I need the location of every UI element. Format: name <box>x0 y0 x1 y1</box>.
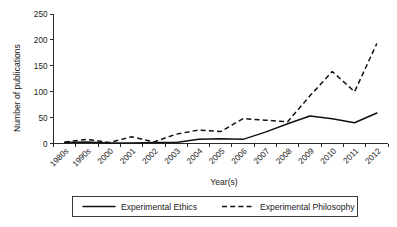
legend-label-experimental-philosophy: Experimental Philosophy <box>260 202 355 212</box>
y-tick-label: 250 <box>34 10 48 19</box>
legend-label-experimental-ethics: Experimental Ethics <box>121 202 197 212</box>
y-tick-label: 0 <box>43 140 48 149</box>
y-tick-label: 100 <box>34 88 48 97</box>
y-axis-title: Number of publications <box>12 44 22 132</box>
y-tick-label: 50 <box>38 114 48 123</box>
publications-line-chart: Number of publications 050100150200250 1… <box>0 0 397 227</box>
chart-canvas: Number of publications 050100150200250 1… <box>0 0 397 227</box>
y-axis-title-text: Number of publications <box>12 44 22 132</box>
chart-background <box>0 0 397 227</box>
y-tick-label: 150 <box>34 62 48 71</box>
x-axis-title-text: Year(s) <box>210 177 238 187</box>
y-tick-label: 200 <box>34 36 48 45</box>
chart-legend: Experimental Ethics Experimental Philoso… <box>73 197 358 217</box>
